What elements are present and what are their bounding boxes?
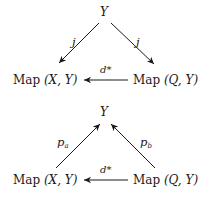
- label-j-right: j: [136, 37, 140, 49]
- node-map-q-y-top: Map (Q, Y): [133, 74, 198, 86]
- node-map-q-y-bottom: Map (Q, Y): [133, 174, 198, 186]
- label-d-star-top: d*: [100, 65, 111, 75]
- arrow-apex-to-right-top: [111, 23, 154, 64]
- arrow-apex-to-left-top: [59, 23, 99, 63]
- label-d-star-bottom: d*: [100, 165, 111, 175]
- label-j-left: j: [72, 37, 76, 49]
- node-map-x-y-bottom: Map (X, Y): [13, 174, 77, 186]
- node-apex-bottom: Y: [100, 106, 108, 118]
- node-apex-top: Y: [100, 6, 108, 18]
- node-map-x-y-top: Map (X, Y): [13, 74, 77, 86]
- label-p-a: pa: [57, 137, 69, 150]
- label-p-b: pb: [140, 137, 152, 150]
